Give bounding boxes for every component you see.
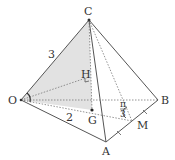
tetrahedron-diagram: C O B A H G M 3 2 π 3 [0,0,175,160]
label-a: A [101,145,111,158]
label-o: O [8,94,17,107]
point-g [90,108,93,111]
label-m: M [137,119,148,132]
label-b: B [161,94,169,107]
edge-label-oc: 3 [48,48,55,61]
label-h: H [81,68,91,81]
point-o [20,99,23,102]
edge-label-oa: 2 [66,111,73,124]
angle-label-numerator: π [120,99,126,109]
shaded-face-ocg [21,20,92,110]
point-c [88,19,91,22]
label-g: G [88,114,97,127]
label-c: C [84,5,92,18]
angle-label-denominator: 3 [120,109,126,119]
edge-cb [89,20,158,100]
